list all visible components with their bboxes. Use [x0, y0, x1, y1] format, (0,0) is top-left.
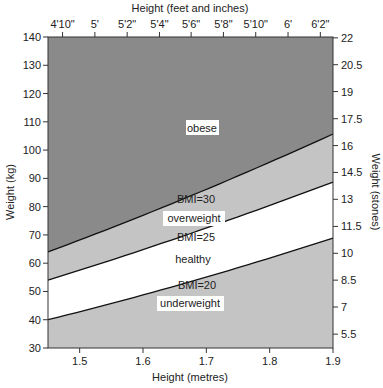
svg-text:11.5: 11.5: [341, 220, 362, 232]
svg-text:6': 6': [284, 18, 292, 30]
svg-text:7: 7: [341, 301, 347, 313]
svg-text:5'4": 5'4": [150, 18, 168, 30]
svg-text:140: 140: [23, 31, 41, 43]
x-axis-top: 4'10"5'5'2"5'4"5'6"5'8"5'10"6'6'2": [50, 18, 329, 37]
y-axis-left: 30405060708090100110120130140: [23, 31, 48, 354]
y-axis-right: 5.578.51011.51314.51617.51920.522: [333, 32, 362, 340]
svg-text:22: 22: [341, 32, 353, 44]
svg-text:5'2": 5'2": [118, 18, 136, 30]
svg-text:1.8: 1.8: [262, 355, 277, 367]
svg-text:120: 120: [23, 88, 41, 100]
svg-text:6'2": 6'2": [311, 18, 329, 30]
svg-text:5.5: 5.5: [341, 328, 356, 340]
svg-text:100: 100: [23, 144, 41, 156]
svg-text:90: 90: [29, 172, 41, 184]
label-bmi20: BMI=20: [178, 279, 216, 291]
svg-text:17.5: 17.5: [341, 113, 362, 125]
svg-text:5'6": 5'6": [182, 18, 200, 30]
label-overweight: overweight: [167, 212, 220, 224]
label-obese: obese: [187, 122, 217, 134]
left-axis-title: Weight (kg): [4, 164, 16, 220]
label-underweight: underweight: [160, 297, 220, 309]
svg-text:16: 16: [341, 140, 353, 152]
svg-text:20.5: 20.5: [341, 59, 362, 71]
svg-text:1.7: 1.7: [199, 355, 214, 367]
svg-text:70: 70: [29, 229, 41, 241]
label-bmi25: BMI=25: [177, 231, 215, 243]
top-axis-title: Height (feet and inches): [132, 2, 249, 14]
x-axis-bottom: 1.51.61.71.81.9: [72, 348, 341, 367]
bmi-chart: 1.51.61.71.81.9 4'10"5'5'2"5'4"5'6"5'8"5…: [0, 0, 383, 388]
svg-text:8.5: 8.5: [341, 274, 356, 286]
svg-text:10: 10: [341, 247, 353, 259]
svg-text:5'10": 5'10": [244, 18, 268, 30]
svg-text:50: 50: [29, 285, 41, 297]
svg-text:19: 19: [341, 86, 353, 98]
svg-text:30: 30: [29, 342, 41, 354]
label-healthy: healthy: [175, 253, 211, 265]
svg-text:1.9: 1.9: [325, 355, 340, 367]
right-axis-title: Weight (stones): [370, 154, 382, 231]
svg-text:40: 40: [29, 314, 41, 326]
svg-text:1.6: 1.6: [135, 355, 150, 367]
svg-text:5'8": 5'8": [214, 18, 232, 30]
label-bmi30: BMI=30: [177, 193, 215, 205]
svg-text:130: 130: [23, 59, 41, 71]
svg-text:1.5: 1.5: [72, 355, 87, 367]
svg-text:5': 5': [91, 18, 99, 30]
svg-text:60: 60: [29, 257, 41, 269]
svg-text:80: 80: [29, 201, 41, 213]
svg-text:14.5: 14.5: [341, 166, 362, 178]
svg-text:110: 110: [23, 116, 41, 128]
bottom-axis-title: Height (metres): [152, 371, 228, 383]
svg-text:4'10": 4'10": [50, 18, 74, 30]
svg-text:13: 13: [341, 193, 353, 205]
